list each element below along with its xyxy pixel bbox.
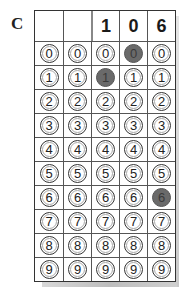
question-label: C — [11, 14, 23, 34]
bubble-col5-digit-4[interactable]: 4 — [152, 140, 171, 159]
bubble-row-2: 22222 — [35, 89, 175, 113]
bubble-cell: 2 — [119, 90, 147, 113]
bubble-cell: 2 — [63, 90, 91, 113]
bubble-col1-digit-6[interactable]: 6 — [40, 188, 59, 207]
bubble-col4-digit-9[interactable]: 9 — [124, 260, 143, 279]
bubble-col4-digit-1[interactable]: 1 — [124, 68, 143, 87]
bubble-col2-digit-6[interactable]: 6 — [68, 188, 87, 207]
bubble-col1-digit-8[interactable]: 8 — [40, 236, 59, 255]
bubble-col5-digit-3[interactable]: 3 — [152, 116, 171, 135]
bubble-cell: 6 — [35, 186, 63, 209]
bubble-col3-digit-7[interactable]: 7 — [96, 212, 115, 231]
bubble-col2-digit-7[interactable]: 7 — [68, 212, 87, 231]
bubble-col1-digit-2[interactable]: 2 — [40, 92, 59, 111]
answer-box-1[interactable] — [35, 11, 63, 41]
bubble-col1-digit-4[interactable]: 4 — [40, 140, 59, 159]
bubble-col1-digit-5[interactable]: 5 — [40, 164, 59, 183]
bubble-col3-digit-6[interactable]: 6 — [96, 188, 115, 207]
bubble-col4-digit-8[interactable]: 8 — [124, 236, 143, 255]
bubble-cell: 4 — [147, 138, 175, 161]
bubble-cell: 7 — [147, 210, 175, 233]
bubble-cell: 5 — [91, 162, 119, 185]
bubble-col4-digit-6[interactable]: 6 — [124, 188, 143, 207]
bubble-col3-digit-1[interactable]: 1 — [96, 68, 115, 87]
bubble-cell: 9 — [147, 258, 175, 281]
bubble-cell: 7 — [91, 210, 119, 233]
bubble-col5-digit-1[interactable]: 1 — [152, 68, 171, 87]
bubble-col4-digit-2[interactable]: 2 — [124, 92, 143, 111]
bubble-cell: 5 — [63, 162, 91, 185]
bubble-col2-digit-8[interactable]: 8 — [68, 236, 87, 255]
bubble-col2-digit-2[interactable]: 2 — [68, 92, 87, 111]
bubble-col4-digit-5[interactable]: 5 — [124, 164, 143, 183]
bubble-cell: 1 — [63, 66, 91, 89]
bubble-cell: 3 — [119, 114, 147, 137]
bubble-cell: 5 — [35, 162, 63, 185]
bubble-cell: 0 — [147, 42, 175, 65]
bubble-row-7: 77777 — [35, 209, 175, 233]
bubble-cell: 7 — [119, 210, 147, 233]
bubble-col1-digit-1[interactable]: 1 — [40, 68, 59, 87]
bubble-col3-digit-8[interactable]: 8 — [96, 236, 115, 255]
bubble-col4-digit-0[interactable]: 0 — [124, 44, 143, 63]
bubble-col4-digit-4[interactable]: 4 — [124, 140, 143, 159]
bubble-cell: 4 — [63, 138, 91, 161]
bubble-cell: 2 — [91, 90, 119, 113]
bubble-row-6: 66666 — [35, 185, 175, 209]
bubble-cell: 2 — [35, 90, 63, 113]
bubble-cell: 4 — [91, 138, 119, 161]
bubble-cell: 0 — [35, 42, 63, 65]
bubble-col4-digit-3[interactable]: 3 — [124, 116, 143, 135]
bubble-col2-digit-5[interactable]: 5 — [68, 164, 87, 183]
answer-box-2[interactable] — [63, 11, 91, 41]
bubble-col2-digit-1[interactable]: 1 — [68, 68, 87, 87]
bubble-row-1: 11111 — [35, 65, 175, 89]
bubble-cell: 0 — [63, 42, 91, 65]
bubble-cell: 3 — [63, 114, 91, 137]
bubble-col2-digit-4[interactable]: 4 — [68, 140, 87, 159]
answer-box-3[interactable]: 1 — [91, 11, 119, 41]
bubble-col1-digit-0[interactable]: 0 — [40, 44, 59, 63]
bubble-cell: 7 — [63, 210, 91, 233]
bubble-col3-digit-4[interactable]: 4 — [96, 140, 115, 159]
bubble-cell: 8 — [63, 234, 91, 257]
bubble-cell: 6 — [119, 186, 147, 209]
bubble-col5-digit-6[interactable]: 6 — [152, 188, 171, 207]
bubble-cell: 8 — [147, 234, 175, 257]
bubble-cell: 2 — [147, 90, 175, 113]
bubble-col4-digit-7[interactable]: 7 — [124, 212, 143, 231]
bubble-col3-digit-3[interactable]: 3 — [96, 116, 115, 135]
bubble-cell: 9 — [91, 258, 119, 281]
bubble-row-9: 99999 — [35, 257, 175, 281]
bubble-col5-digit-8[interactable]: 8 — [152, 236, 171, 255]
answer-box-4[interactable]: 0 — [119, 11, 147, 41]
bubble-col1-digit-3[interactable]: 3 — [40, 116, 59, 135]
bubble-col5-digit-2[interactable]: 2 — [152, 92, 171, 111]
bubble-col1-digit-7[interactable]: 7 — [40, 212, 59, 231]
bubble-cell: 0 — [91, 42, 119, 65]
bubble-col1-digit-9[interactable]: 9 — [40, 260, 59, 279]
bubble-col5-digit-5[interactable]: 5 — [152, 164, 171, 183]
bubble-col5-digit-7[interactable]: 7 — [152, 212, 171, 231]
bubble-col3-digit-9[interactable]: 9 — [96, 260, 115, 279]
bubble-col3-digit-5[interactable]: 5 — [96, 164, 115, 183]
answer-box-5[interactable]: 6 — [147, 11, 175, 41]
bubble-cell: 9 — [35, 258, 63, 281]
bubble-col2-digit-3[interactable]: 3 — [68, 116, 87, 135]
bubble-cell: 6 — [91, 186, 119, 209]
bubble-cell: 3 — [91, 114, 119, 137]
bubble-cell: 1 — [147, 66, 175, 89]
bubble-row-3: 33333 — [35, 113, 175, 137]
bubble-col5-digit-0[interactable]: 0 — [152, 44, 171, 63]
bubble-col3-digit-2[interactable]: 2 — [96, 92, 115, 111]
bubble-cell: 9 — [119, 258, 147, 281]
bubble-col5-digit-9[interactable]: 9 — [152, 260, 171, 279]
bubble-col2-digit-0[interactable]: 0 — [68, 44, 87, 63]
bubble-cell: 7 — [35, 210, 63, 233]
bubble-cell: 3 — [147, 114, 175, 137]
bubble-col2-digit-9[interactable]: 9 — [68, 260, 87, 279]
bubble-cell: 5 — [147, 162, 175, 185]
answer-grid: 1 0 6 0000011111222223333344444555556666… — [34, 10, 176, 282]
bubble-cell: 0 — [119, 42, 147, 65]
bubble-col3-digit-0[interactable]: 0 — [96, 44, 115, 63]
